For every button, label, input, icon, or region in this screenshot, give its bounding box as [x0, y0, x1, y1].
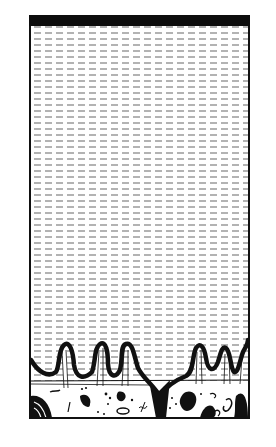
water-dash-pattern [31, 26, 248, 386]
diagram-drawing [0, 0, 276, 447]
top-bar [29, 15, 250, 26]
